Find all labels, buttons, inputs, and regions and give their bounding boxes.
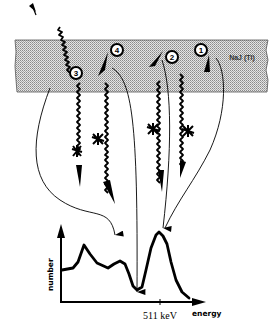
track-4	[105, 83, 108, 193]
energy-spectrum-chart: 511 keV energy number	[46, 224, 222, 321]
signal-paths	[36, 58, 223, 292]
arrow-track-3-down	[76, 165, 82, 187]
event-badge-2: 2	[166, 51, 178, 63]
tick-label-511: 511 keV	[143, 310, 178, 321]
svg-text:4: 4	[115, 46, 120, 55]
svg-text:2: 2	[170, 53, 175, 62]
track-2	[157, 81, 160, 183]
scintillation-diagram: NaJ (Tl)	[0, 0, 279, 330]
event-badge-1: 1	[195, 44, 207, 56]
crystal-slab: NaJ (Tl)	[15, 40, 268, 92]
x-axis-arrow-icon	[192, 298, 206, 306]
y-axis-label: number	[46, 258, 55, 291]
spectrum-curve	[62, 232, 189, 298]
svg-text:1: 1	[199, 46, 204, 55]
star-3	[72, 145, 82, 157]
star-4	[92, 133, 104, 145]
y-axis-arrow-icon	[57, 224, 65, 238]
path-3	[36, 88, 115, 235]
path-4	[112, 68, 137, 292]
photon-tracks	[29, 3, 183, 193]
incoming-track-3	[77, 83, 80, 155]
star-2	[147, 123, 160, 135]
event-badge-4: 4	[111, 44, 123, 56]
arrow-track-4-down	[103, 180, 115, 204]
x-axis-label: energy	[192, 309, 222, 318]
crystal-label: NaJ (Tl)	[229, 54, 255, 62]
arrow-track-1-down	[180, 160, 186, 178]
svg-text:3: 3	[74, 69, 79, 78]
event-badge-3: 3	[70, 67, 82, 79]
